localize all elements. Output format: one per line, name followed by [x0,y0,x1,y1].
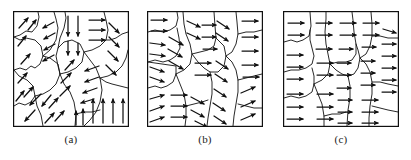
panel-b-caption: (b) [147,132,263,146]
panel-b-canvas [147,11,263,127]
panel-a-canvas [13,11,129,127]
panel-c-canvas [283,11,399,127]
panel-a [13,11,129,127]
panel-c [283,11,399,127]
figure-root: (a) [0,0,411,160]
panel-c-border [284,12,399,127]
panel-b [147,11,263,127]
panel-a-border [14,12,129,127]
panel-c-caption: (c) [283,132,399,146]
panel-a-caption: (a) [13,132,129,146]
